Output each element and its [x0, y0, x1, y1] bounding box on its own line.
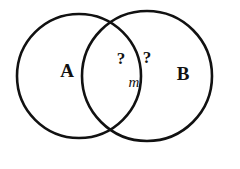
set-b-label: B [177, 63, 190, 84]
figure-background [0, 0, 240, 169]
question-mark-right: ? [143, 48, 152, 67]
set-a-label: A [60, 60, 74, 81]
venn-diagram-canvas: A B ? ? m [0, 0, 240, 169]
measure-label-m: m [129, 74, 140, 90]
question-mark-left: ? [117, 49, 126, 68]
venn-diagram: A B ? ? m [0, 0, 240, 169]
